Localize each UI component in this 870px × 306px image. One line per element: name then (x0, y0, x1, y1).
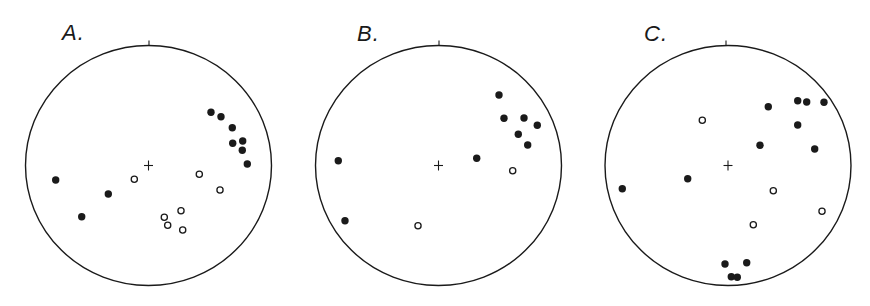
center-cross-icon (144, 161, 153, 171)
filled-pole-marker (239, 147, 246, 154)
filled-pole-marker (524, 141, 531, 148)
filled-pole-marker (520, 114, 527, 121)
open-pole-marker (178, 208, 184, 214)
filled-pole-marker (341, 217, 348, 224)
filled-pole-marker (534, 122, 541, 129)
filled-pole-marker (52, 176, 59, 183)
open-pole-marker (180, 227, 186, 233)
open-pole-marker (415, 223, 421, 229)
filled-pole-marker (217, 113, 224, 120)
filled-pole-marker (734, 274, 741, 281)
filled-pole-marker (721, 260, 728, 267)
stereonet-canvas (0, 0, 870, 306)
filled-pole-marker (820, 99, 827, 106)
open-pole-marker (196, 171, 202, 177)
panel-label-c: C. (644, 23, 668, 45)
filled-pole-marker (229, 140, 236, 147)
filled-pole-marker (105, 190, 112, 197)
panel-label-a: A. (62, 22, 85, 44)
filled-pole-marker (207, 109, 214, 116)
filled-pole-marker (619, 185, 626, 192)
filled-pole-marker (794, 121, 801, 128)
open-pole-marker (161, 214, 167, 220)
open-pole-marker (770, 188, 776, 194)
filled-pole-marker (811, 145, 818, 152)
filled-pole-marker (335, 157, 342, 164)
filled-pole-marker (473, 155, 480, 162)
stereonet-panel-a (26, 41, 272, 286)
filled-pole-marker (500, 115, 507, 122)
stereonet-panel-b (316, 41, 562, 286)
stereonet-panel-c (605, 41, 851, 286)
open-pole-marker (699, 117, 705, 123)
open-pole-marker (750, 222, 756, 228)
center-cross-icon (434, 161, 443, 171)
filled-pole-marker (78, 213, 85, 220)
filled-pole-marker (244, 160, 251, 167)
center-cross-icon (724, 161, 733, 171)
open-pole-marker (217, 187, 223, 193)
filled-pole-marker (684, 175, 691, 182)
open-pole-marker (819, 208, 825, 214)
filled-pole-marker (765, 103, 772, 110)
filled-pole-marker (495, 91, 502, 98)
filled-pole-marker (515, 131, 522, 138)
filled-pole-marker (756, 142, 763, 149)
filled-pole-marker (794, 97, 801, 104)
panel-label-b: B. (357, 23, 380, 45)
stereonet-figure: A. B. C. (0, 0, 870, 306)
open-pole-marker (131, 176, 137, 182)
filled-pole-marker (743, 259, 750, 266)
open-pole-marker (510, 168, 516, 174)
filled-pole-marker (239, 137, 246, 144)
open-pole-marker (165, 222, 171, 228)
filled-pole-marker (803, 98, 810, 105)
filled-pole-marker (229, 124, 236, 131)
